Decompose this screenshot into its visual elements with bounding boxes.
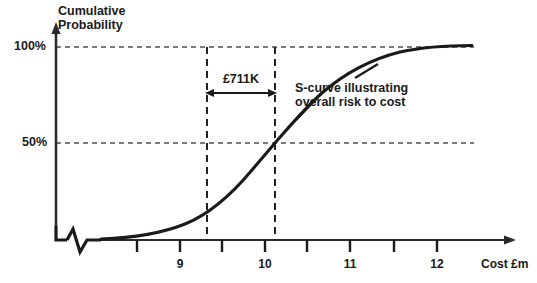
callout-leader-line-upper	[355, 64, 378, 78]
y-tick-label-100: 100%	[14, 39, 46, 53]
x-axis-arrowhead	[504, 236, 516, 245]
y-axis-title-line2: Probability	[58, 18, 123, 32]
x-tick-label-9: 9	[177, 258, 184, 272]
s-curve-path	[101, 46, 472, 240]
x-axis-ticks	[137, 240, 437, 252]
curve-callout-line2: overall risk to cost	[295, 95, 405, 109]
x-axis-title: Cost £m	[481, 258, 528, 272]
axis-break-zigzag-icon	[67, 229, 101, 252]
y-tick-label-50: 50%	[22, 135, 47, 149]
range-measure-label: £711K	[223, 72, 259, 86]
curve-callout-annotation: S-curve illustratingoverall risk to cost	[295, 81, 408, 110]
x-tick-label-11: 11	[344, 258, 357, 272]
y-axis-lower-stub	[56, 226, 67, 240]
x-tick-label-10: 10	[258, 258, 271, 272]
y-axis-title-line1: Cumulative	[58, 4, 125, 18]
y-axis-title: CumulativeProbability	[58, 4, 125, 33]
chart-canvas	[0, 0, 537, 283]
curve-callout-line1: S-curve illustrating	[295, 81, 408, 95]
s-curve-chart: CumulativeProbability 100% 50% 9 10 11 1…	[0, 0, 537, 283]
x-tick-label-12: 12	[430, 258, 443, 272]
